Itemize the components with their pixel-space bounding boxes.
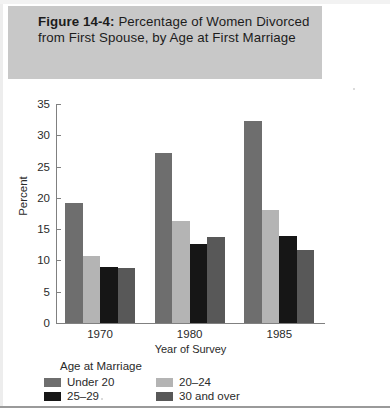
scan-speckle	[101, 398, 103, 400]
bar	[118, 267, 136, 323]
legend-item-label: 20–24	[179, 376, 211, 388]
bar	[100, 266, 118, 323]
bar	[65, 202, 83, 323]
bar	[190, 243, 208, 323]
legend-swatch	[156, 378, 173, 387]
legend-title: Age at Marriage	[60, 360, 142, 372]
x-axis-title: Year of Survey	[56, 343, 325, 355]
bar	[262, 209, 280, 324]
scan-speckle	[353, 88, 355, 90]
bar	[297, 249, 315, 323]
legend-swatch	[44, 392, 61, 401]
legend-item-label: 30 and over	[179, 390, 240, 402]
bar	[172, 220, 190, 323]
legend-item: Under 20	[44, 376, 114, 388]
x-axis-tick-label: 1980	[160, 328, 220, 340]
bar	[207, 236, 225, 323]
bar	[244, 120, 262, 323]
legend-swatch	[156, 392, 173, 401]
legend-item-label: 25–29	[67, 390, 99, 402]
bar	[155, 152, 173, 323]
bar	[279, 235, 297, 323]
bar	[83, 255, 101, 323]
legend-item: 20–24	[156, 376, 211, 388]
chart-plot-area: 05101520253035 Percent 197019801985 Year…	[0, 0, 390, 411]
x-axis-tick-label: 1970	[70, 328, 130, 340]
legend-item-label: Under 20	[67, 376, 114, 388]
legend-item: 30 and over	[156, 390, 240, 402]
x-axis-tick-label: 1985	[249, 328, 309, 340]
legend-item: 25–29	[44, 390, 99, 402]
legend-swatch	[44, 378, 61, 387]
figure-page: Figure 14-4: Percentage of Women Divorce…	[0, 0, 390, 411]
